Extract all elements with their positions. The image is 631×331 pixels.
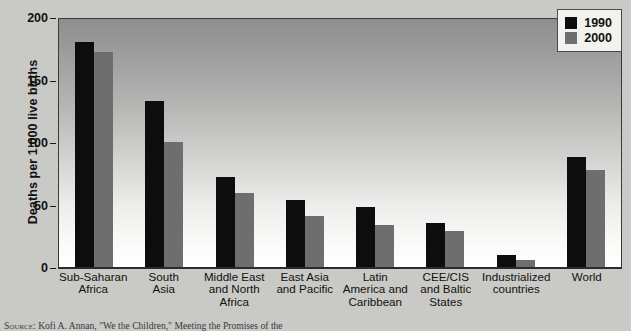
bar-group: [129, 19, 199, 267]
y-tick-mark-0: [50, 268, 56, 269]
bar-1990: [216, 177, 235, 267]
source-label: Source:: [4, 320, 36, 331]
bar-2000: [586, 170, 605, 268]
source-text: Kofi A. Annan, "We the Children," Meetin…: [38, 320, 282, 331]
bar-group: [59, 19, 129, 267]
x-axis-line: [58, 267, 622, 269]
x-axis-label: LatinAmerica andCaribbean: [340, 271, 411, 319]
bar-group: [340, 19, 410, 267]
x-axis-label: SouthAsia: [129, 271, 200, 319]
y-tick-mark-200: [50, 18, 56, 19]
legend-item-1990: 1990: [565, 16, 612, 30]
bar-groups: [59, 19, 621, 267]
bar-group: [551, 19, 621, 267]
x-axis-label: Industrializedcountries: [481, 271, 552, 319]
bar-1990: [75, 42, 94, 267]
legend-label: 2000: [584, 31, 612, 45]
y-axis-ticks: 050100150200: [10, 0, 48, 328]
bar-1990: [497, 255, 516, 268]
bar-1990: [567, 157, 586, 267]
bar-1990: [286, 200, 305, 268]
x-axis-label-line: Africa: [200, 296, 269, 308]
bar-2000: [164, 142, 183, 267]
y-tick-label-0: 0: [14, 261, 48, 275]
y-tick-label-50: 50: [14, 199, 48, 213]
gray-square-swatch: [565, 32, 577, 44]
bar-group: [270, 19, 340, 267]
y-tick-mark-50: [50, 206, 56, 207]
bar-group: [481, 19, 551, 267]
y-tick-mark-150: [50, 81, 56, 82]
x-axis-label-line: Caribbean: [341, 296, 410, 308]
x-axis-label-line: Asia: [130, 283, 199, 295]
x-axis-label-line: America and: [341, 283, 410, 295]
x-axis-label-line: and Pacific: [271, 283, 340, 295]
y-tick-label-200: 200: [14, 11, 48, 25]
legend: 19902000: [557, 9, 622, 52]
y-tick-label-100: 100: [14, 136, 48, 150]
bar-group: [410, 19, 480, 267]
bar-1990: [426, 223, 445, 267]
bar-1990: [356, 207, 375, 267]
x-axis-label: CEE/CISand BalticStates: [411, 271, 482, 319]
x-axis-label-line: countries: [482, 283, 551, 295]
legend-label: 1990: [584, 16, 612, 30]
legend-item-2000: 2000: [565, 31, 612, 45]
bar-2000: [235, 193, 254, 267]
x-axis-label-line: Africa: [59, 283, 128, 295]
x-axis-label: Sub-SaharanAfrica: [58, 271, 129, 319]
x-axis-label: Middle Eastand NorthAfrica: [199, 271, 270, 319]
y-tick-label-150: 150: [14, 74, 48, 88]
bar-2000: [305, 216, 324, 267]
black-square-swatch: [565, 17, 577, 29]
bar-1990: [145, 101, 164, 267]
x-axis-label-line: World: [553, 271, 622, 283]
x-axis-label-line: and North: [200, 283, 269, 295]
bar-2000: [94, 52, 113, 267]
bar-2000: [516, 260, 535, 268]
x-axis-label-line: and Baltic: [412, 283, 481, 295]
bar-group: [200, 19, 270, 267]
source-note: Source: Kofi A. Annan, "We the Children,…: [4, 320, 283, 331]
x-axis-label: World: [552, 271, 623, 319]
y-tick-mark-100: [50, 143, 56, 144]
plot-area: [58, 18, 622, 268]
bar-2000: [445, 231, 464, 267]
bar-2000: [375, 225, 394, 268]
x-axis-label: East Asiaand Pacific: [270, 271, 341, 319]
x-axis-label-line: States: [412, 296, 481, 308]
x-axis-labels: Sub-SaharanAfricaSouthAsiaMiddle Eastand…: [58, 271, 622, 319]
